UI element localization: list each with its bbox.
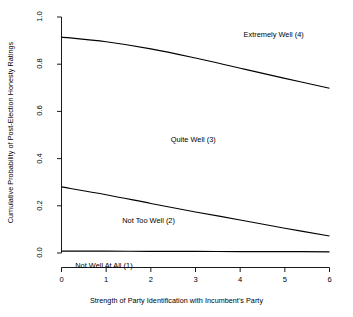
x-axis-tick-label: 0 xyxy=(50,275,74,284)
data-curve xyxy=(62,251,330,252)
data-curve xyxy=(62,187,330,236)
y-axis-tick-label: 0.4 xyxy=(34,145,43,171)
x-axis-tick-label: 4 xyxy=(228,275,252,284)
data-curve xyxy=(62,37,330,88)
curve-label: Extremely Well (4) xyxy=(234,30,314,39)
y-axis-ticks xyxy=(57,17,62,253)
x-axis-title: Strength of Party Identification with In… xyxy=(0,296,353,305)
x-axis-tick-label: 2 xyxy=(139,275,163,284)
y-axis-title: Cumulative Probability of Post-Election … xyxy=(7,42,16,223)
x-axis-tick-label: 3 xyxy=(184,275,208,284)
y-axis-tick-label: 0.2 xyxy=(34,192,43,218)
data-curves xyxy=(62,37,330,252)
x-axis-tick-label: 5 xyxy=(273,275,297,284)
y-axis-tick-label: 0.8 xyxy=(34,51,43,77)
plot-area xyxy=(0,0,353,317)
y-axis-tick-label: 0.0 xyxy=(34,240,43,266)
y-axis-title-container: Cumulative Probability of Post-Election … xyxy=(0,0,22,265)
x-axis-tick-label: 1 xyxy=(94,275,118,284)
curve-label: Not Too Well (2) xyxy=(109,216,189,225)
x-axis-tick-label: 6 xyxy=(318,275,342,284)
y-axis-tick-label: 0.6 xyxy=(34,98,43,124)
curve-label: Not Well At All (1) xyxy=(64,261,144,270)
curve-label: Quite Well (3) xyxy=(153,135,233,144)
chart-figure: Cumulative Probability of Post-Election … xyxy=(0,0,353,317)
y-axis-tick-label: 1.0 xyxy=(34,4,43,30)
